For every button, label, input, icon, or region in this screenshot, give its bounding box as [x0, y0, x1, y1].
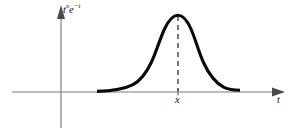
y-axis-label: txe−t — [63, 3, 80, 15]
x-axis-label: t — [277, 95, 280, 105]
y-axis-label-factor-exponent: −t — [74, 2, 81, 10]
y-axis-group — [57, 5, 65, 128]
gamma-integrand-figure: txe−t t x — [0, 0, 294, 138]
peak-tick-label: x — [175, 95, 180, 106]
x-axis-group — [12, 88, 285, 97]
integrand-curve — [97, 15, 240, 91]
figure-canvas — [0, 0, 294, 138]
